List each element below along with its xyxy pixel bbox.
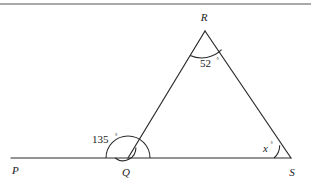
vertex-label-p: P	[11, 164, 19, 176]
vertex-label-s: S	[289, 166, 295, 178]
angle-value-at-q: 135	[92, 133, 109, 145]
triangle-diagram: P Q R S 52 ° 135 ° x °	[0, 0, 311, 187]
diagram-background	[0, 0, 311, 187]
angle-value-at-s: x	[262, 142, 268, 154]
vertex-label-q: Q	[122, 166, 130, 178]
angle-value-at-r: 52	[200, 57, 211, 69]
geometry-figure-screenshot: P Q R S 52 ° 135 ° x °	[0, 0, 311, 187]
vertex-label-r: R	[200, 11, 208, 23]
